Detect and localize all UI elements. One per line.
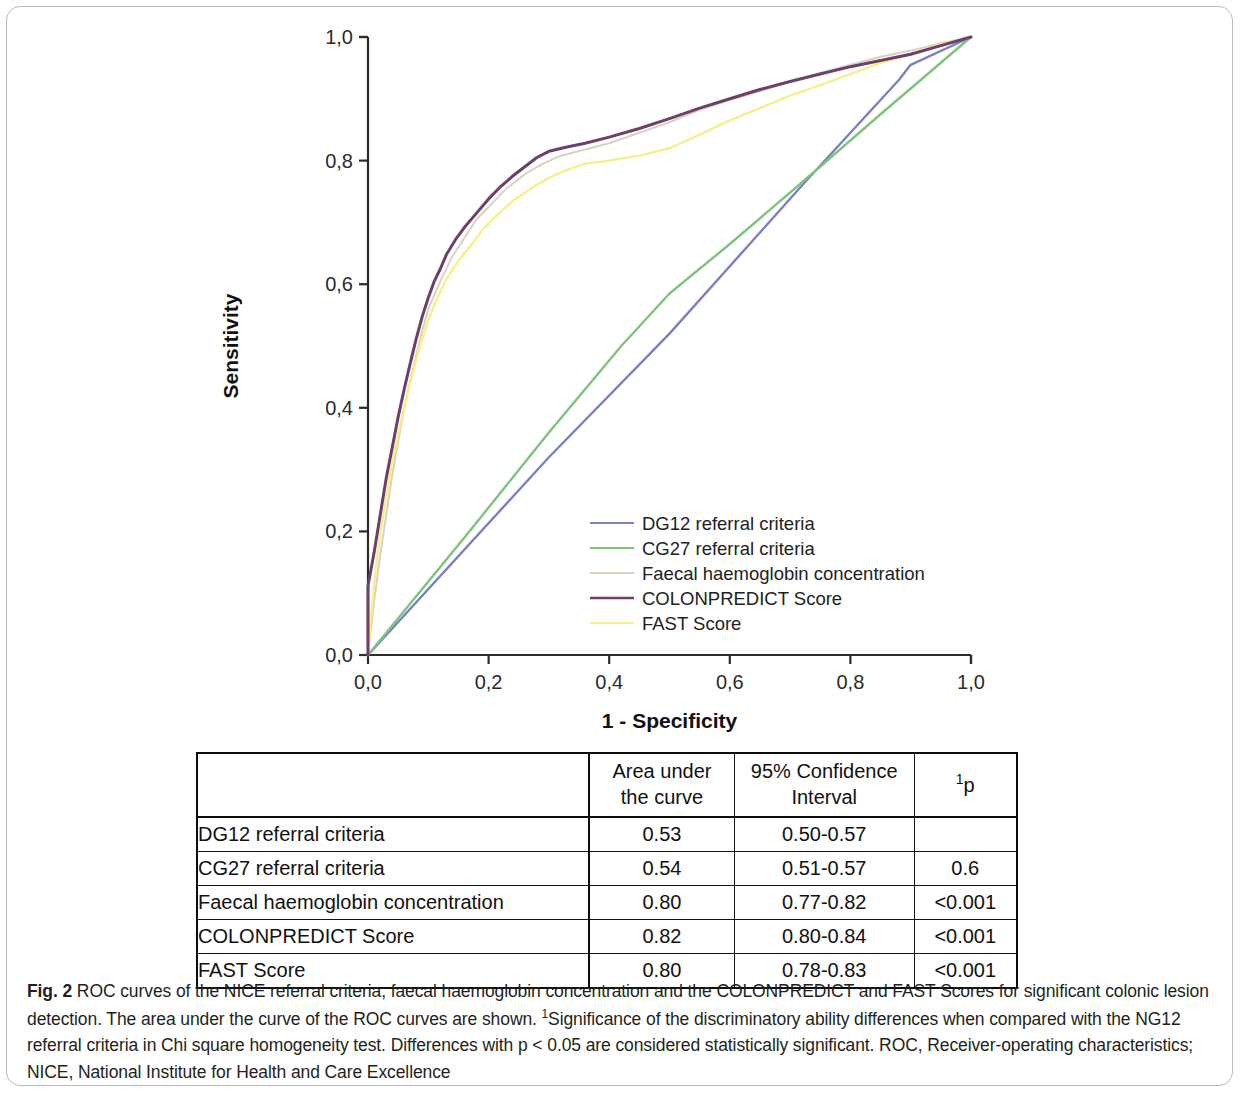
header-p-text: p [964,774,975,796]
table-row: DG12 referral criteria0.530.50-0.57 [197,817,1017,852]
auc-statistics-table: Area under the curve 95% Confidence Inte… [196,752,1018,989]
row-p-value: 0.6 [914,852,1017,886]
legend-label: CG27 referral criteria [642,538,815,559]
plot-legend: DG12 referral criteriaCG27 referral crit… [590,513,925,634]
y-tick-label: 0,0 [325,644,353,666]
x-tick-label: 0,4 [595,671,623,693]
header-auc-line1: Area under [594,759,730,785]
legend-label: DG12 referral criteria [642,513,815,534]
x-tick-label: 0,2 [475,671,503,693]
row-p-value: <0.001 [914,886,1017,920]
header-ci-line1: 95% Confidence [739,759,910,785]
row-label: COLONPREDICT Score [197,920,589,954]
y-tick-label: 0,2 [325,520,353,542]
figure-number: Fig. 2 [27,981,72,1001]
row-auc: 0.82 [589,920,735,954]
x-tick-label: 0,0 [354,671,382,693]
row-confidence-interval: 0.51-0.57 [734,852,914,886]
header-p-superscript: 1 [956,771,964,787]
row-auc: 0.53 [589,817,735,852]
y-axis-title: Sensitivity [219,293,242,398]
row-label: Faecal haemoglobin concentration [197,886,589,920]
row-confidence-interval: 0.50-0.57 [734,817,914,852]
header-ci-line2: Interval [739,785,910,811]
legend-label: Faecal haemoglobin concentration [642,563,925,584]
legend-label: COLONPREDICT Score [642,588,842,609]
roc-chart: 0,00,20,40,60,81,00,00,20,40,60,81,01 - … [0,0,1241,740]
header-auc-line2: the curve [594,785,730,811]
row-label: DG12 referral criteria [197,817,589,852]
table-row: CG27 referral criteria0.540.51-0.570.6 [197,852,1017,886]
row-auc: 0.80 [589,886,735,920]
y-tick-label: 0,8 [325,150,353,172]
header-p-value: 1p [914,753,1017,817]
x-tick-label: 0,6 [716,671,744,693]
roc-plot-svg: 0,00,20,40,60,81,00,00,20,40,60,81,01 - … [0,0,1241,740]
legend-label: FAST Score [642,613,741,634]
header-area-under-curve: Area under the curve [589,753,735,817]
row-p-value [914,817,1017,852]
y-tick-label: 0,6 [325,273,353,295]
row-p-value: <0.001 [914,920,1017,954]
row-confidence-interval: 0.80-0.84 [734,920,914,954]
row-confidence-interval: 0.77-0.82 [734,886,914,920]
row-label: CG27 referral criteria [197,852,589,886]
header-blank [197,753,589,817]
x-tick-label: 1,0 [957,671,985,693]
y-tick-label: 1,0 [325,26,353,48]
x-tick-label: 0,8 [836,671,864,693]
plot-tick-labels: 0,00,20,40,60,81,00,00,20,40,60,81,01 - … [219,26,985,732]
x-axis-title: 1 - Specificity [602,709,738,732]
row-auc: 0.54 [589,852,735,886]
table-row: COLONPREDICT Score0.820.80-0.84<0.001 [197,920,1017,954]
table-header-row: Area under the curve 95% Confidence Inte… [197,753,1017,817]
header-confidence-interval: 95% Confidence Interval [734,753,914,817]
table-row: Faecal haemoglobin concentration0.800.77… [197,886,1017,920]
y-tick-label: 0,4 [325,397,353,419]
figure-caption: Fig. 2 ROC curves of the NICE referral c… [27,978,1212,1085]
